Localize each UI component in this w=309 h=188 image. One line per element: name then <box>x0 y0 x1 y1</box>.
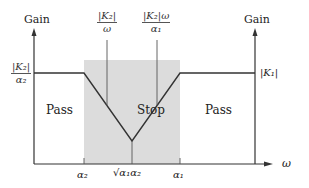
region-label-pass-left: Pass <box>46 104 73 116</box>
right-gain-label: |K₁| <box>260 68 278 78</box>
marker-left-denominator: ω <box>103 23 111 34</box>
tick-label-alpha1: α₁ <box>173 170 184 180</box>
marker-right-label: |K₂|ω α₁ <box>142 11 170 34</box>
tick-label-alpha2: α₂ <box>77 170 88 180</box>
left-axis-label: Gain <box>24 14 50 25</box>
left-gain-numerator: |K₂| <box>11 62 31 74</box>
marker-right-denominator: α₁ <box>151 23 162 34</box>
left-gain-denominator: α₂ <box>16 74 27 85</box>
right-axis-arrow-icon <box>253 28 258 36</box>
marker-left-label: |K₂| ω <box>97 11 117 34</box>
marker-left-numerator: |K₂| <box>97 11 117 23</box>
left-axis-arrow-icon <box>32 28 37 36</box>
right-axis-label: Gain <box>244 14 270 25</box>
left-gain-label: |K₂| α₂ <box>11 62 31 85</box>
region-label-stop: Stop <box>137 104 165 116</box>
frequency-axis-arrow-icon <box>264 162 273 167</box>
tick-label-sqrt: √α₁α₂ <box>113 168 141 178</box>
x-axis-label: ω <box>282 158 291 169</box>
marker-right-numerator: |K₂|ω <box>142 11 170 23</box>
region-label-pass-right: Pass <box>205 104 232 116</box>
